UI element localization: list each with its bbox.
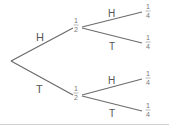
svg-text:1: 1 [74,85,78,92]
label-h: H [36,31,44,43]
label-t: T [36,83,43,95]
fraction-leaf-ht: 1 4 [146,34,151,50]
svg-text:1: 1 [146,34,150,41]
fraction-leaf-tt: 1 4 [146,102,151,118]
label-tt: T [109,108,115,119]
probability-tree: H T 1 2 1 2 H T H T 1 4 1 4 1 4 1 4 [0,0,169,132]
svg-text:2: 2 [74,94,78,101]
label-hh: H [108,8,115,19]
label-ht: T [109,41,115,52]
svg-text:1: 1 [146,70,150,77]
label-th: H [108,75,115,86]
fraction-leaf-th: 1 4 [146,70,151,86]
svg-text:4: 4 [146,79,150,86]
svg-text:2: 2 [74,26,78,33]
svg-text:1: 1 [146,102,150,109]
fraction-lower-mid: 1 2 [74,85,79,101]
fraction-upper-mid: 1 2 [74,17,79,33]
svg-text:4: 4 [146,12,150,19]
fraction-leaf-hh: 1 4 [146,3,151,19]
svg-text:1: 1 [146,3,150,10]
svg-text:1: 1 [74,17,78,24]
svg-text:4: 4 [146,111,150,118]
svg-text:4: 4 [146,43,150,50]
